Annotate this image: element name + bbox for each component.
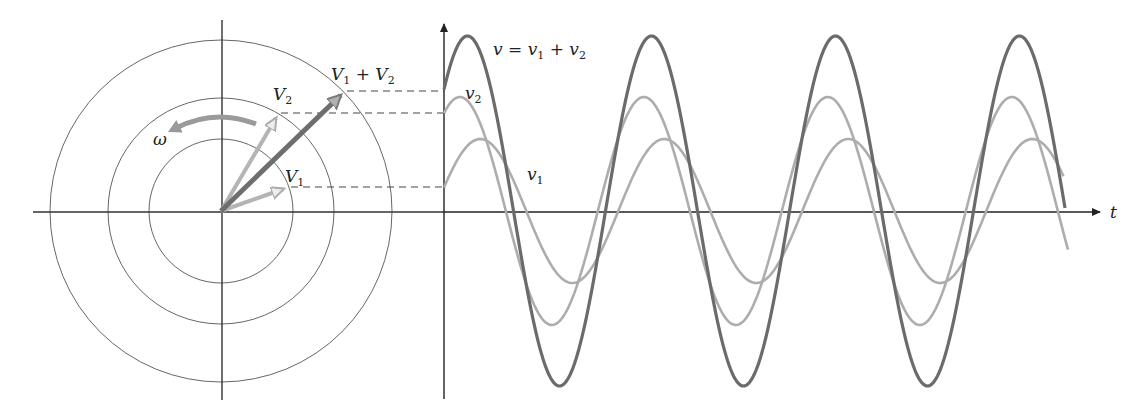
- phasor-waveform-figure: ω V1 V2 V1 + V2 t v = v1 + v2 v2 v1: [0, 0, 1147, 420]
- phasor-v1-plus-v2-arrow-icon: [221, 95, 341, 211]
- sum-waveform-label: v = v1 + v2: [493, 39, 586, 62]
- v2-phasor-label: V2: [273, 84, 292, 107]
- waveform-curves: [444, 36, 1068, 386]
- time-axis-label: t: [1110, 202, 1117, 222]
- v1-phasor-label: V1: [285, 166, 304, 189]
- sum-phasor-label: V1 + V2: [331, 64, 395, 87]
- phasor-arrows: [221, 95, 341, 211]
- figure-canvas: ω V1 V2 V1 + V2 t v = v1 + v2 v2 v1: [0, 0, 1147, 420]
- rotation-arrow-icon: [176, 117, 256, 128]
- v1-waveform-label: v1: [527, 164, 544, 187]
- sum-waveform-curve: [444, 36, 1065, 386]
- v2-waveform-label: v2: [465, 83, 482, 106]
- projection-dashes: [281, 91, 444, 187]
- omega-label: ω: [153, 129, 167, 149]
- phasor-diagram: ω V1 V2 V1 + V2: [33, 20, 444, 400]
- waveform-plot: t v = v1 + v2 v2 v1: [444, 24, 1117, 399]
- v1-waveform-curve: [444, 139, 1064, 283]
